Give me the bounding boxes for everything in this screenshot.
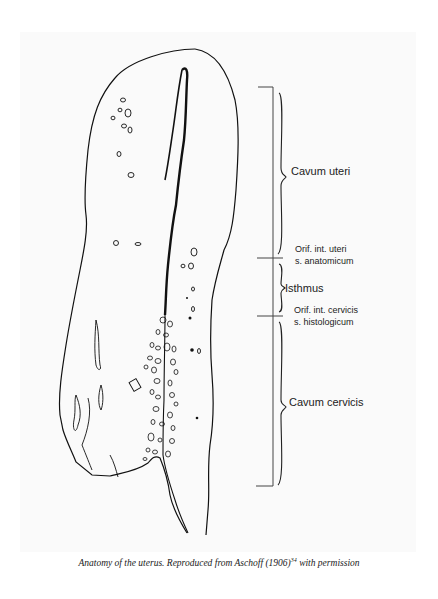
label-orif-int-cervicis: Orif. int. cervicis — [294, 305, 358, 315]
figure-caption: Anatomy of the uterus. Reproduced from A… — [0, 557, 438, 568]
label-s-histologicum: s. histologicum — [294, 317, 354, 327]
uterus-anatomy-drawing — [0, 0, 438, 599]
label-isthmus: Isthmus — [285, 282, 324, 295]
brace-cavum-uteri — [278, 93, 286, 254]
guideline-lower — [256, 316, 273, 486]
label-orif-int-uteri: Orif. int. uteri — [295, 244, 347, 254]
uterus-outline-right — [195, 49, 238, 535]
label-cavum-uteri: Cavum uteri — [291, 165, 350, 178]
brace-cavum-cervicis — [278, 322, 286, 485]
cervical-glands — [143, 317, 178, 461]
caption-suffix: with permission — [297, 558, 360, 568]
caption-text: Anatomy of the uterus. Reproduced from A… — [78, 558, 290, 568]
guideline-upper — [258, 87, 273, 258]
label-s-anatomicum: s. anatomicum — [295, 256, 354, 266]
glands-dots — [186, 297, 198, 419]
region-brackets — [256, 87, 286, 486]
label-cavum-cervicis: Cavum cervicis — [289, 396, 364, 409]
